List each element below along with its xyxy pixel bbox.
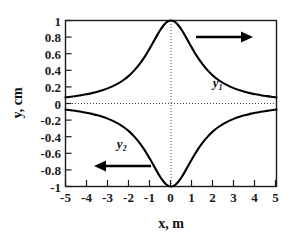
svg-text:0.6: 0.6	[45, 47, 62, 62]
svg-text:-2: -2	[123, 190, 134, 205]
svg-text:4: 4	[251, 190, 258, 205]
svg-text:-4: -4	[81, 190, 92, 205]
svg-text:0: 0	[167, 190, 174, 205]
svg-text:2: 2	[209, 190, 216, 205]
svg-text:0.8: 0.8	[45, 30, 62, 45]
svg-text:-1: -1	[144, 190, 155, 205]
svg-text:0.2: 0.2	[45, 80, 61, 95]
svg-text:0: 0	[55, 97, 62, 112]
svg-text:-0.8: -0.8	[40, 163, 61, 178]
chart-canvas: -5 -4 -3 -2 -1 0 1 2 3 4 5 1 0.8 0.6 0.4…	[0, 0, 296, 241]
series-label-y1: y₁	[211, 75, 223, 90]
x-axis-title: x, m	[158, 216, 184, 231]
figure-container: -5 -4 -3 -2 -1 0 1 2 3 4 5 1 0.8 0.6 0.4…	[0, 0, 296, 241]
svg-text:1: 1	[188, 190, 195, 205]
svg-text:-3: -3	[102, 190, 113, 205]
svg-text:-5: -5	[60, 190, 71, 205]
series-label-y2: y₂	[115, 136, 127, 151]
svg-text:5: 5	[272, 190, 279, 205]
svg-text:-1: -1	[50, 180, 61, 195]
svg-text:-0.6: -0.6	[40, 146, 61, 161]
svg-text:-0.2: -0.2	[40, 113, 61, 128]
y-axis-title: y, cm	[10, 87, 25, 118]
svg-text:3: 3	[230, 190, 237, 205]
svg-text:1: 1	[55, 14, 62, 29]
svg-text:-0.4: -0.4	[40, 130, 61, 145]
svg-text:0.4: 0.4	[45, 63, 62, 78]
